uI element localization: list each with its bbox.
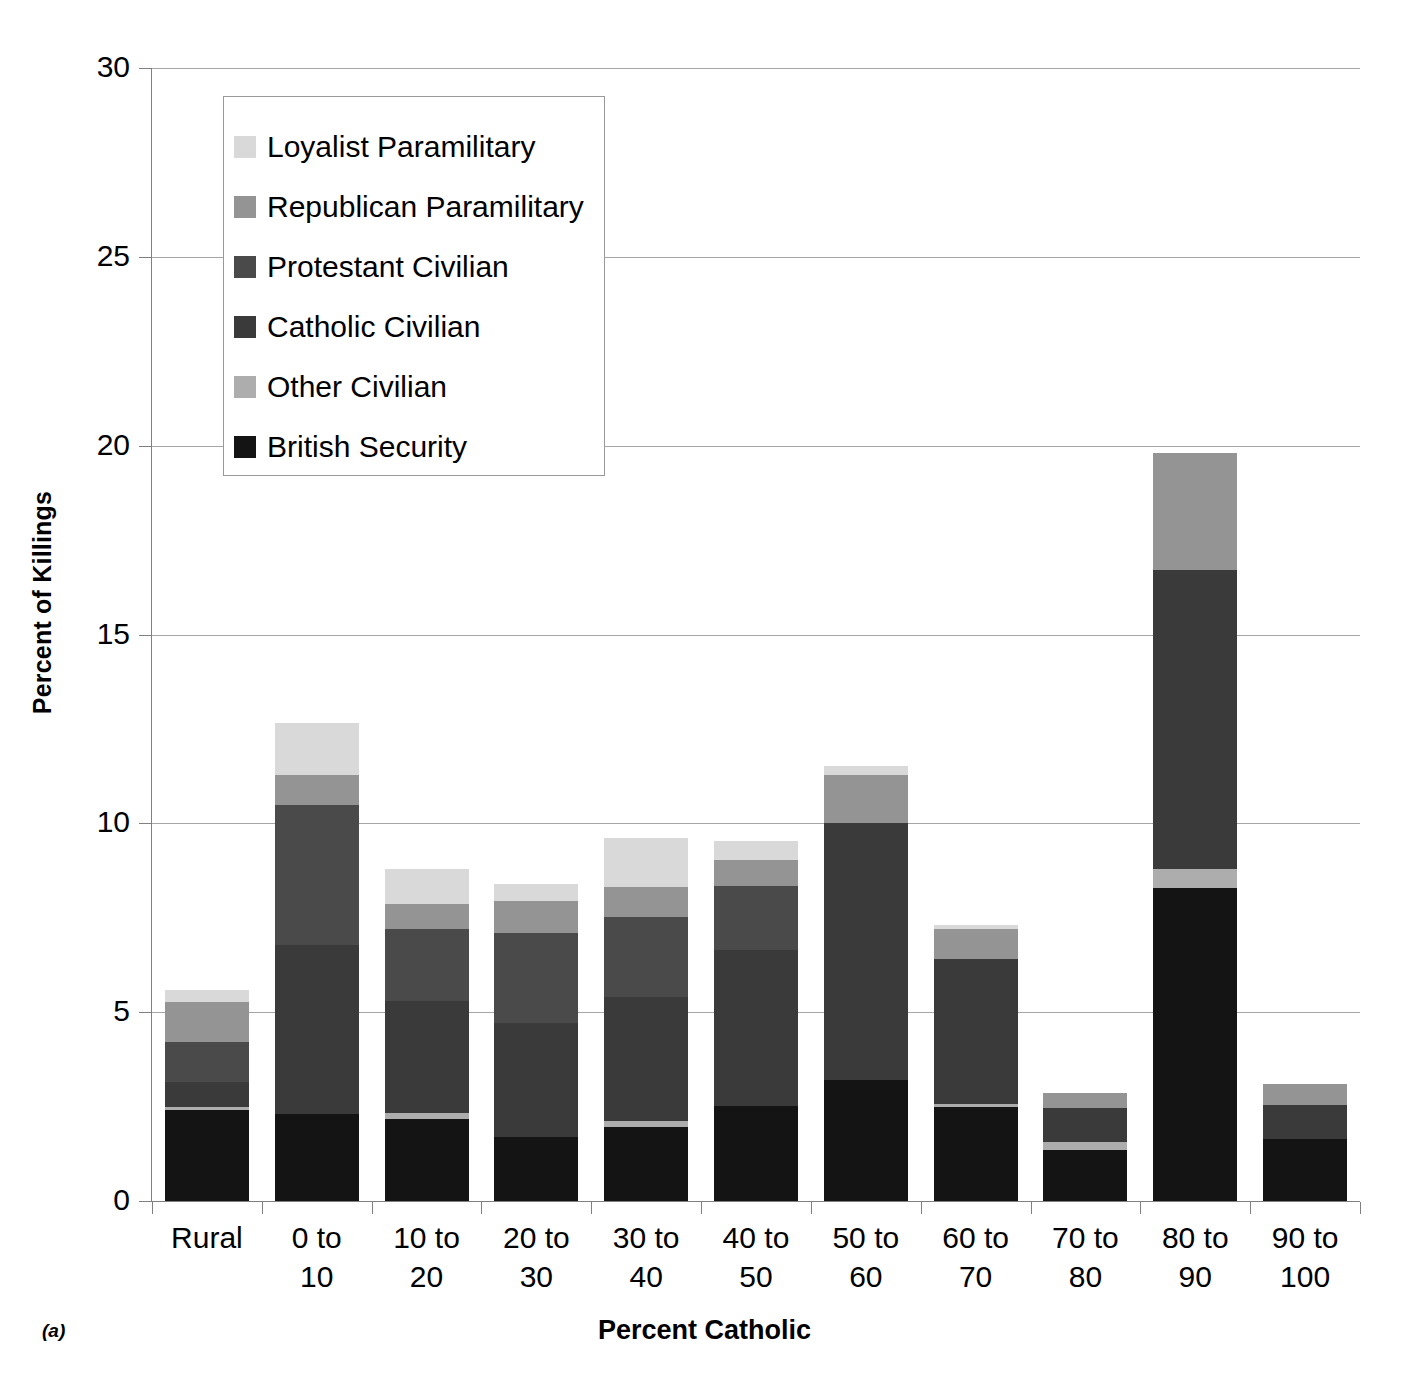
bar-segment[interactable]	[165, 1082, 249, 1107]
bar-segment[interactable]	[1153, 888, 1237, 1201]
bar-segment[interactable]	[604, 1127, 688, 1201]
stacked-bar[interactable]	[275, 723, 359, 1201]
stacked-bar[interactable]	[1043, 1093, 1127, 1201]
legend-item[interactable]: Republican Paramilitary	[234, 177, 604, 237]
bar-segment[interactable]	[714, 841, 798, 860]
bar-segment[interactable]	[934, 1107, 1018, 1201]
y-axis-tick-label: 30	[60, 52, 130, 82]
bar-segment[interactable]	[934, 929, 1018, 959]
bar-segment[interactable]	[385, 904, 469, 929]
bar-group[interactable]	[1263, 68, 1347, 1201]
bar-segment[interactable]	[604, 838, 688, 887]
bar-group[interactable]	[824, 68, 908, 1201]
y-axis-tick-label: 0	[60, 1185, 130, 1215]
bar-segment[interactable]	[604, 917, 688, 997]
x-axis-category-label: 20 to30	[481, 1218, 591, 1296]
stacked-bar[interactable]	[934, 925, 1018, 1201]
x-axis-tick-mark	[262, 1202, 263, 1214]
stacked-bar[interactable]	[165, 990, 249, 1201]
bar-segment[interactable]	[165, 990, 249, 1002]
x-axis-category-label: 60 to70	[921, 1218, 1031, 1296]
stacked-bar[interactable]	[385, 869, 469, 1201]
legend-swatch-icon	[234, 376, 256, 398]
legend-item-label: Loyalist Paramilitary	[267, 132, 535, 162]
bar-segment[interactable]	[824, 766, 908, 775]
legend-item-label: Other Civilian	[267, 372, 447, 402]
legend-swatch-icon	[234, 316, 256, 338]
x-axis-tick-mark	[921, 1202, 922, 1214]
bar-segment[interactable]	[385, 869, 469, 904]
stacked-bar[interactable]	[1153, 453, 1237, 1201]
bar-segment[interactable]	[385, 929, 469, 1001]
bar-segment[interactable]	[824, 1080, 908, 1201]
legend-item[interactable]: Loyalist Paramilitary	[234, 117, 604, 177]
bar-segment[interactable]	[1043, 1142, 1127, 1150]
bar-segment[interactable]	[494, 933, 578, 1023]
bar-segment[interactable]	[165, 1002, 249, 1042]
bar-segment[interactable]	[385, 1001, 469, 1113]
bar-segment[interactable]	[714, 1106, 798, 1201]
bar-segment[interactable]	[1263, 1105, 1347, 1139]
bar-segment[interactable]	[714, 886, 798, 950]
bar-segment[interactable]	[494, 901, 578, 933]
legend-item[interactable]: British Security	[234, 417, 604, 477]
bar-segment[interactable]	[604, 1121, 688, 1127]
bar-segment[interactable]	[275, 805, 359, 945]
bar-segment[interactable]	[165, 1110, 249, 1201]
bar-segment[interactable]	[275, 723, 359, 775]
x-axis-title: Percent Catholic	[0, 1315, 1409, 1346]
stacked-bar[interactable]	[1263, 1084, 1347, 1201]
bar-segment[interactable]	[1153, 570, 1237, 869]
bar-segment[interactable]	[934, 1104, 1018, 1107]
x-axis-tick-mark	[372, 1202, 373, 1214]
bar-segment[interactable]	[1153, 869, 1237, 888]
bar-segment[interactable]	[165, 1107, 249, 1110]
bar-segment[interactable]	[824, 823, 908, 1080]
bar-group[interactable]	[1153, 68, 1237, 1201]
bar-segment[interactable]	[934, 925, 1018, 929]
bar-segment[interactable]	[1043, 1093, 1127, 1108]
bar-segment[interactable]	[714, 950, 798, 1106]
bar-segment[interactable]	[824, 775, 908, 823]
bar-segment[interactable]	[1263, 1084, 1347, 1105]
bar-group[interactable]	[714, 68, 798, 1201]
stacked-bar[interactable]	[824, 766, 908, 1201]
legend-item-label: Protestant Civilian	[267, 252, 509, 282]
bar-segment[interactable]	[604, 997, 688, 1121]
bar-segment[interactable]	[714, 860, 798, 886]
bar-segment[interactable]	[385, 1113, 469, 1119]
x-axis-category-label: 40 to50	[701, 1218, 811, 1296]
legend-item[interactable]: Other Civilian	[234, 357, 604, 417]
legend-item[interactable]: Catholic Civilian	[234, 297, 604, 357]
x-axis-category-label: 80 to90	[1140, 1218, 1250, 1296]
bar-group[interactable]	[1043, 68, 1127, 1201]
bar-segment[interactable]	[385, 1119, 469, 1201]
x-axis-category-label: 0 to10	[262, 1218, 372, 1296]
stacked-bar[interactable]	[714, 841, 798, 1201]
bar-segment[interactable]	[494, 1023, 578, 1137]
x-axis-category-label: 10 to20	[372, 1218, 482, 1296]
bar-segment[interactable]	[1043, 1108, 1127, 1142]
bar-segment[interactable]	[1263, 1139, 1347, 1201]
legend-item-label: Republican Paramilitary	[267, 192, 584, 222]
bar-segment[interactable]	[604, 887, 688, 917]
legend-item[interactable]: Protestant Civilian	[234, 237, 604, 297]
y-axis-tick-label: 5	[60, 996, 130, 1026]
bar-segment[interactable]	[934, 959, 1018, 1104]
x-axis-category-label: 90 to100	[1250, 1218, 1360, 1296]
stacked-bar[interactable]	[604, 838, 688, 1201]
bar-group[interactable]	[934, 68, 1018, 1201]
bar-segment[interactable]	[275, 945, 359, 1114]
bar-segment[interactable]	[275, 775, 359, 805]
bar-segment[interactable]	[1153, 453, 1237, 569]
bar-segment[interactable]	[275, 1114, 359, 1201]
bar-segment[interactable]	[494, 1137, 578, 1201]
bar-group[interactable]	[604, 68, 688, 1201]
x-axis-tick-mark	[701, 1202, 702, 1214]
bar-segment[interactable]	[1043, 1150, 1127, 1201]
panel-tag: (a)	[42, 1320, 65, 1342]
bar-segment[interactable]	[165, 1042, 249, 1082]
bar-segment[interactable]	[494, 884, 578, 901]
stacked-bar[interactable]	[494, 884, 578, 1201]
x-axis-tick-mark	[811, 1202, 812, 1214]
